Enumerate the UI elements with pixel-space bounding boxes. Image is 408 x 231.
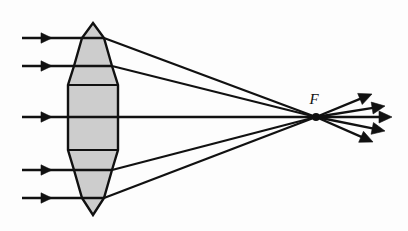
diagram-canvas: F [0,0,408,231]
focal-point-dot [312,113,320,121]
focal-point-label: F [308,91,319,107]
lens-ray-diagram: F [0,0,408,231]
diagram-background [0,0,408,231]
